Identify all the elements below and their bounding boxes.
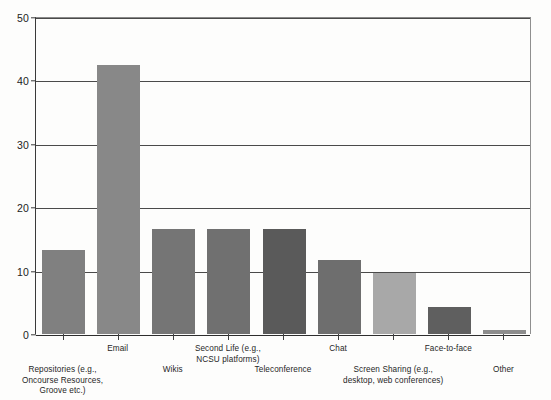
y-gridline-50 [36,18,530,19]
x-axis-label-5: Chat [329,344,347,355]
y-tick-label-10: 10 [17,266,29,278]
y-tick-label-30: 30 [17,139,29,151]
bar-2 [152,229,195,334]
y-tick-mark-30 [31,144,36,145]
x-axis-label-4: Teleconference [255,365,312,376]
plot-inner: 50403020100 [36,18,530,334]
y-tick-label-50: 50 [17,12,29,24]
y-tick-label-40: 40 [17,75,29,87]
y-tick-mark-40 [31,81,36,82]
bar-5 [318,260,361,334]
x-axis-label-0: Repositories (e.g., Oncourse Resources, … [22,365,103,397]
bar-3 [207,229,250,334]
x-axis-label-3: Second Life (e.g., NCSU platforms) [195,344,261,365]
bar-1 [97,65,140,334]
x-axis-label-6: Screen Sharing (e.g., desktop, web confe… [343,365,443,386]
y-tick-label-20: 20 [17,202,29,214]
bar-6 [373,273,416,334]
bar-4 [263,229,306,334]
bar-chart-figure: 50403020100 Repositories (e.g., Oncourse… [0,0,551,400]
y-tick-mark-20 [31,207,36,208]
x-axis-label-7: Face-to-face [425,344,472,355]
x-axis-label-1: Email [107,344,128,355]
y-tick-mark-50 [31,17,36,18]
bar-7 [428,307,471,334]
x-axis-label-2: Wikis [163,365,183,376]
x-axis-labels: Repositories (e.g., Oncourse Resources, … [0,334,551,400]
plot-area: 50403020100 [35,17,531,334]
bar-0 [42,250,85,334]
x-axis-label-8: Other [493,365,514,376]
y-tick-mark-10 [31,271,36,272]
